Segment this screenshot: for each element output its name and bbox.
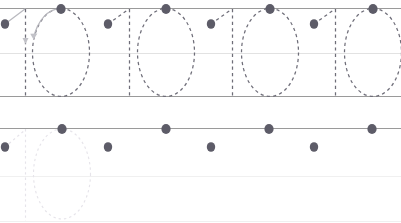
ruling-lines-row2 bbox=[0, 129, 401, 222]
zero-oval bbox=[345, 9, 401, 97]
glyph-one-row1-0 bbox=[1, 9, 29, 96]
start-dot bbox=[207, 142, 215, 152]
row-traced bbox=[0, 4, 401, 97]
arrow-down-left-icon bbox=[30, 34, 37, 40]
glyph-zero-row1-1 bbox=[30, 4, 89, 97]
ghost-glyph-zero-row2-1 bbox=[34, 129, 91, 219]
start-dot bbox=[104, 19, 112, 29]
start-dot bbox=[310, 19, 318, 29]
ruling-lines-row1 bbox=[0, 9, 401, 97]
glyph-zero-row1-5 bbox=[242, 4, 299, 97]
start-dot bbox=[207, 19, 215, 29]
glyph-zero-row1-7 bbox=[345, 4, 401, 97]
zero-oval-faint bbox=[34, 129, 91, 219]
start-dot bbox=[265, 4, 274, 14]
glyph-one-row1-2 bbox=[104, 9, 130, 96]
start-dot bbox=[104, 142, 112, 152]
zero-oval bbox=[242, 9, 299, 97]
zero-oval bbox=[33, 9, 90, 97]
ghost-glyph-one-row2-0 bbox=[5, 129, 26, 221]
start-dot bbox=[367, 124, 376, 134]
zero-start-guide-arc bbox=[34, 9, 62, 38]
glyph-zero-row1-3 bbox=[138, 4, 195, 97]
start-dot bbox=[368, 4, 377, 14]
start-dot bbox=[56, 4, 65, 14]
start-dot bbox=[310, 142, 318, 152]
start-dot bbox=[1, 142, 9, 152]
zero-oval bbox=[138, 9, 195, 97]
start-dot bbox=[161, 4, 170, 14]
worksheet-page bbox=[0, 0, 401, 223]
arrow-down-icon bbox=[23, 38, 29, 44]
worksheet-canvas bbox=[0, 0, 401, 223]
row-blank-practice bbox=[0, 124, 401, 222]
glyph-one-row1-4 bbox=[207, 9, 233, 96]
start-dot bbox=[1, 19, 9, 29]
start-dot bbox=[57, 124, 66, 134]
glyph-one-row1-6 bbox=[310, 9, 336, 96]
start-dot bbox=[264, 124, 273, 134]
start-dot bbox=[161, 124, 170, 134]
